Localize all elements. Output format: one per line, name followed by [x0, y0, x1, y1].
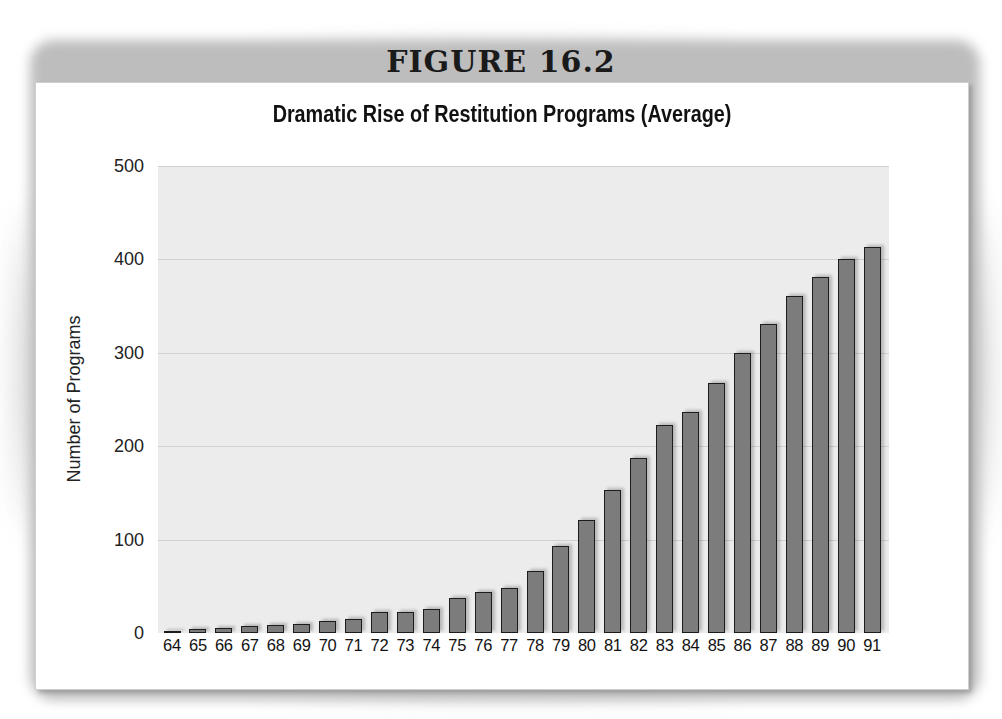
bar	[293, 624, 310, 633]
bar	[215, 628, 232, 633]
bar	[656, 425, 673, 633]
figure-label: FIGURE 16.2	[0, 44, 1002, 79]
bar	[786, 296, 803, 633]
x-tick-label: 89	[807, 636, 833, 655]
x-tick-label: 79	[548, 636, 574, 655]
bar	[630, 458, 647, 633]
bar	[267, 625, 284, 633]
x-tick-label: 80	[574, 636, 600, 655]
x-tick-label: 71	[341, 636, 367, 655]
x-tick-label: 84	[678, 636, 704, 655]
y-tick-label: 400	[84, 249, 144, 270]
bar	[604, 490, 621, 633]
y-tick-label: 500	[84, 156, 144, 177]
y-tick-label: 100	[84, 529, 144, 550]
gridline	[158, 353, 889, 354]
bar	[345, 619, 362, 633]
plot-area	[158, 166, 889, 633]
x-tick-label: 73	[392, 636, 418, 655]
bar	[734, 353, 751, 633]
bar	[189, 629, 206, 633]
bar	[552, 546, 569, 633]
gridline	[158, 259, 889, 260]
x-tick-label: 82	[626, 636, 652, 655]
gridline	[158, 540, 889, 541]
bar	[578, 520, 595, 633]
gridline	[158, 166, 889, 167]
x-tick-label: 72	[366, 636, 392, 655]
bar	[449, 598, 466, 633]
x-tick-label: 87	[755, 636, 781, 655]
y-tick-label: 0	[84, 623, 144, 644]
x-tick-label: 66	[211, 636, 237, 655]
bar	[812, 277, 829, 633]
bar	[864, 247, 881, 633]
y-tick-label: 300	[84, 342, 144, 363]
bar	[708, 383, 725, 633]
gridline	[158, 446, 889, 447]
x-tick-label: 81	[600, 636, 626, 655]
x-tick-label: 75	[444, 636, 470, 655]
x-tick-label: 85	[704, 636, 730, 655]
x-tick-label: 69	[289, 636, 315, 655]
bar	[319, 621, 336, 633]
x-tick-label: 78	[522, 636, 548, 655]
x-tick-label: 64	[159, 636, 185, 655]
y-tick-label: 200	[84, 436, 144, 457]
bar	[241, 626, 258, 633]
x-tick-label: 77	[496, 636, 522, 655]
bar	[164, 631, 181, 633]
x-tick-label: 91	[859, 636, 885, 655]
bar	[760, 324, 777, 633]
bar	[838, 259, 855, 633]
x-tick-label: 70	[315, 636, 341, 655]
bar	[371, 612, 388, 633]
x-tick-label: 65	[185, 636, 211, 655]
x-tick-label: 67	[237, 636, 263, 655]
x-tick-label: 68	[263, 636, 289, 655]
bar	[682, 412, 699, 633]
bar	[475, 592, 492, 633]
chart-title: Dramatic Rise of Restitution Programs (A…	[101, 101, 903, 128]
chart-card: Dramatic Rise of Restitution Programs (A…	[35, 82, 969, 690]
x-tick-label: 76	[470, 636, 496, 655]
x-tick-label: 74	[418, 636, 444, 655]
y-axis-label: Number of Programs	[64, 315, 85, 482]
x-tick-label: 88	[781, 636, 807, 655]
bar	[527, 571, 544, 633]
bar	[397, 612, 414, 633]
x-tick-label: 90	[833, 636, 859, 655]
bar	[423, 609, 440, 633]
bar	[501, 588, 518, 633]
x-tick-label: 83	[652, 636, 678, 655]
x-tick-label: 86	[729, 636, 755, 655]
